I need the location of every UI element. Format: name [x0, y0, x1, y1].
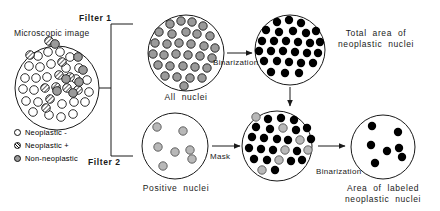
label-positive-nuclei: Positive nuclei: [139, 183, 213, 194]
label-all-nuclei: All nuclei: [155, 92, 217, 103]
node-all-nuclei: [148, 15, 224, 91]
label-labeled-area-line2: neoplastic nuclei: [334, 194, 432, 205]
edge-bracket-filters: [99, 24, 133, 156]
legend-label-neoplastic-negative: Neoplastic -: [25, 128, 67, 137]
node-microscopic-image: [15, 37, 99, 130]
label-filter-2: Filter 2: [88, 157, 121, 168]
legend-item-neoplastic-negative: Neoplastic -: [14, 128, 67, 137]
label-filter-1: Filter 1: [79, 13, 112, 24]
label-binarization-top: Binarization: [213, 58, 258, 68]
label-binarization-bottom: Binarization: [316, 167, 361, 177]
gray-circle-icon: [14, 155, 21, 162]
figure-canvas: Microscopic image Filter 1 Filter 2 All …: [0, 0, 440, 211]
hatched-circle-icon: [14, 142, 21, 149]
node-total-area: [255, 15, 325, 85]
label-labeled-area-line1: Area of labeled: [334, 183, 432, 194]
legend-item-neoplastic-positive: Neoplastic +: [14, 141, 69, 150]
node-positive-nuclei: [142, 113, 208, 179]
legend-label-non-neoplastic: Non-neoplastic: [25, 154, 78, 163]
label-total-area-line2: neoplastic nuclei: [330, 39, 422, 50]
open-circle-icon: [14, 129, 21, 136]
label-total-area-line1: Total area of: [330, 28, 422, 39]
legend-label-neoplastic-positive: Neoplastic +: [25, 141, 69, 150]
legend-item-non-neoplastic: Non-neoplastic: [14, 154, 78, 163]
label-mask: Mask: [210, 152, 230, 162]
label-microscopic-image: Microscopic image: [14, 28, 89, 39]
node-mask-result: [242, 111, 315, 181]
